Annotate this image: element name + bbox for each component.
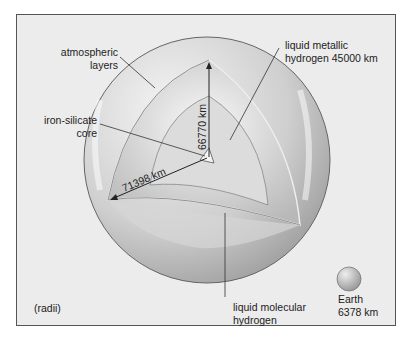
earth-radius-value: 6378 km — [338, 306, 378, 319]
iron-silicate-core-label: iron-silicate core — [18, 114, 97, 140]
liquid-molecular-hydrogen-label: liquid molecular hydrogen — [233, 301, 306, 327]
liquid-metallic-hydrogen-label: liquid metallic hydrogen 45000 km — [285, 39, 378, 65]
atmospheric-label-line1: atmospheric — [50, 46, 118, 59]
atmospheric-label-line2: layers — [50, 59, 118, 72]
earth-label-line1: Earth — [338, 293, 378, 306]
atmospheric-layers-label: atmospheric layers — [50, 46, 118, 72]
core-label-line1: iron-silicate — [18, 114, 97, 127]
earth-sphere — [337, 267, 361, 291]
core-label-line2: core — [18, 127, 97, 140]
radii-note: (radii) — [34, 302, 61, 315]
polar-radius-label: 66770 km — [196, 104, 208, 150]
metallic-label-line1: liquid metallic — [285, 39, 378, 52]
earth-label: Earth 6378 km — [338, 293, 378, 319]
molecular-label-line1: liquid molecular — [233, 301, 306, 314]
molecular-label-line2: hydrogen — [233, 314, 306, 327]
metallic-label-line2: hydrogen 45000 km — [285, 52, 378, 65]
